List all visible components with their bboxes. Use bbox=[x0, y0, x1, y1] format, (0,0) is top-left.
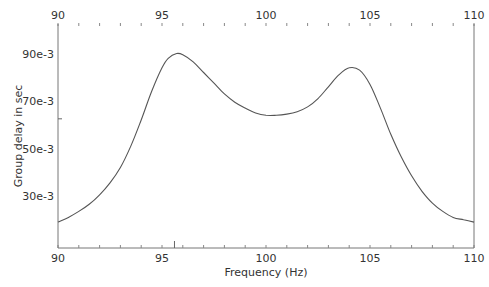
top-x-axis: 9095100105110 bbox=[51, 9, 485, 26]
bottom-x-tick-label: 90 bbox=[51, 252, 65, 265]
bottom-x-tick-label: 105 bbox=[360, 252, 381, 265]
bottom-x-tick-label: 110 bbox=[464, 252, 485, 265]
group-delay-chart: 9095100105110 9095100105110 30e-350e-370… bbox=[0, 0, 489, 287]
bottom-x-axis: 9095100105110 bbox=[51, 241, 485, 265]
top-x-tick-label: 110 bbox=[464, 9, 485, 22]
y-axis-title: Group delay in sec bbox=[12, 85, 25, 188]
top-x-tick-label: 105 bbox=[360, 9, 381, 22]
top-x-tick-label: 100 bbox=[256, 9, 277, 22]
left-y-axis: 30e-350e-370e-390e-3 bbox=[22, 24, 62, 248]
y-tick-label: 90e-3 bbox=[22, 48, 54, 61]
top-x-tick-label: 95 bbox=[155, 9, 169, 22]
y-tick-label: 70e-3 bbox=[22, 95, 54, 108]
y-tick-label: 30e-3 bbox=[22, 190, 54, 203]
top-x-tick-label: 90 bbox=[51, 9, 65, 22]
bottom-x-tick-label: 100 bbox=[256, 252, 277, 265]
x-axis-title: Frequency (Hz) bbox=[225, 266, 308, 279]
bottom-x-tick-label: 95 bbox=[155, 252, 169, 265]
y-tick-label: 50e-3 bbox=[22, 143, 54, 156]
group-delay-curve bbox=[58, 53, 474, 222]
